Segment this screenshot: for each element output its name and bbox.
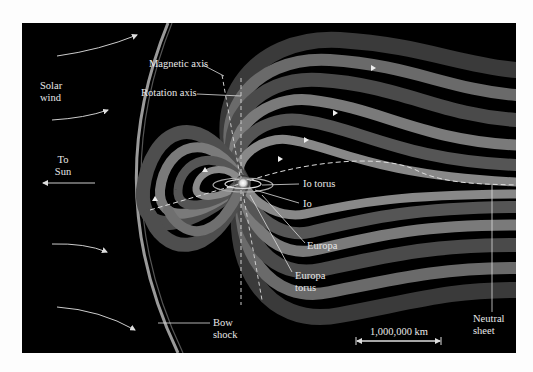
label-solar-wind: Solar wind <box>40 80 62 104</box>
jupiter <box>238 178 248 188</box>
magnetosphere-illustration <box>22 23 516 353</box>
label-io: Io <box>303 198 312 210</box>
label-rotation-axis: Rotation axis <box>141 87 197 99</box>
label-europa-torus: Europa torus <box>295 270 325 294</box>
scale-bar <box>356 337 441 345</box>
label-europa: Europa <box>307 240 337 252</box>
label-magnetic-axis: Magnetic axis <box>149 58 208 70</box>
label-neutral-sheet: Neutral sheet <box>473 313 505 337</box>
magnetosphere-diagram: Solar wind To Sun Magnetic axis Rotation… <box>22 23 516 353</box>
label-bow-shock: Bow shock <box>213 317 238 341</box>
label-scale: 1,000,000 km <box>356 326 442 338</box>
label-to-sun: To Sun <box>48 154 78 178</box>
label-io-torus: Io torus <box>303 178 335 190</box>
